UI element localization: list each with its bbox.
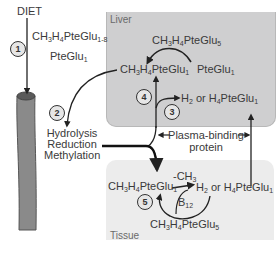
- b12-cofactor: B12: [178, 196, 193, 209]
- step-5-badge: 5: [137, 194, 153, 210]
- step-1-badge: 1: [10, 41, 26, 57]
- step-3-badge: 3: [164, 104, 180, 120]
- gut-processes: Hydrolysis Reduction Methylation: [44, 128, 100, 161]
- diet-compound-secondary: PteGlu1: [50, 50, 88, 63]
- liver-ch3h4pteglu1: CH3H4PteGlu1: [120, 63, 189, 76]
- tissue-ch3h4pteglu5: CH3H4PteGlu5: [150, 218, 219, 231]
- diet-label: DIET: [17, 5, 42, 17]
- liver-ch3h4pteglu5: CH3H4PteGlu5: [152, 34, 221, 47]
- tissue-ch3h4pteglu1: CH3H4PteGlu1: [108, 180, 177, 193]
- plasma-binding-protein: Plasma-binding protein: [168, 129, 244, 153]
- diet-compound-main: CH3H4PteGlu1-8: [32, 30, 107, 43]
- tissue-h2-or-h4pteglu1: H2 or H4PteGlu1: [196, 181, 273, 194]
- process-methylation: Methylation: [44, 150, 100, 161]
- step-2-badge: 2: [49, 105, 65, 121]
- methyl-group-label: -CH3: [173, 170, 196, 183]
- liver-h2-or-h4pteglu1: H2 or H4PteGlu1: [181, 92, 258, 105]
- step-4-badge: 4: [136, 89, 152, 105]
- intestine-icon: [17, 92, 36, 230]
- liver-pteglu1: PteGlu1: [197, 63, 235, 76]
